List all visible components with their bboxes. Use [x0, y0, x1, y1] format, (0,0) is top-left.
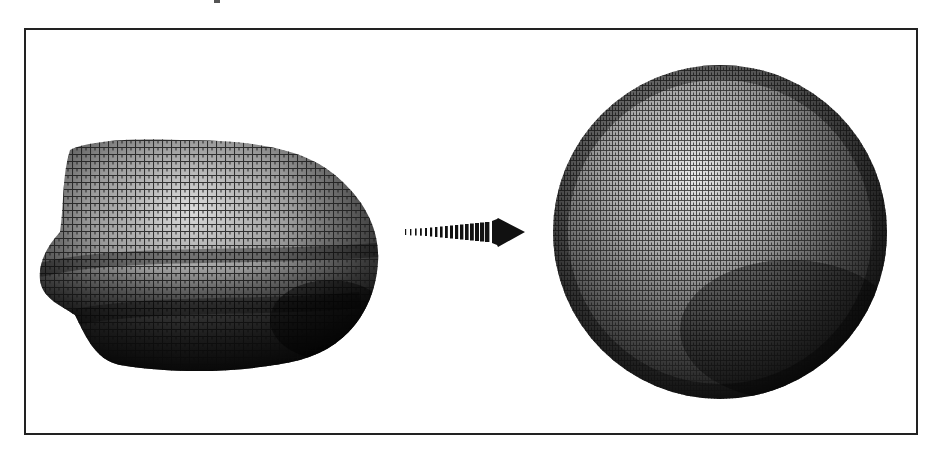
irregular-blob-shape [30, 130, 390, 380]
sphere-shape [550, 60, 900, 405]
transform-arrow-icon [405, 218, 525, 247]
figure-canvas [0, 0, 944, 461]
